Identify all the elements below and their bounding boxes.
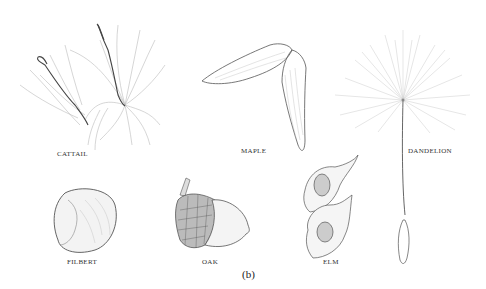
figure-caption: (b): [242, 268, 255, 280]
oak-label: OAK: [202, 258, 218, 266]
oak-illustration: [176, 178, 250, 248]
cattail-label: CATTAIL: [57, 150, 88, 158]
dandelion-label: DANDELION: [408, 147, 452, 155]
cattail-illustration: [20, 24, 165, 150]
filbert-illustration: [54, 189, 116, 253]
seed-dispersal-figure: CATTAIL MAPLE DANDELION FILBERT OAK ELM …: [0, 0, 486, 289]
maple-label: MAPLE: [241, 147, 266, 155]
elm-illustration: [304, 155, 358, 258]
maple-illustration: [202, 44, 306, 151]
illustration: [0, 0, 486, 289]
elm-label: ELM: [323, 258, 339, 266]
filbert-label: FILBERT: [67, 258, 97, 266]
